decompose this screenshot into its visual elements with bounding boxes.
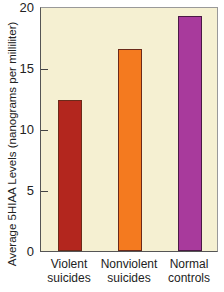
y-tick-label-15: 15 [14, 62, 34, 75]
bar-normal-controls [178, 16, 202, 251]
x-label-line: controls [154, 271, 224, 285]
bar-violent-suicides [58, 100, 82, 251]
y-tick-15 [41, 69, 48, 70]
x-label-line: Normal [154, 257, 224, 271]
y-tick-10 [41, 130, 48, 131]
y-tick-5 [41, 191, 48, 192]
x-label-normal-controls: Normal controls [154, 257, 224, 285]
plot-area [40, 7, 218, 252]
y-tick-label-10: 10 [14, 123, 34, 136]
y-axis-label: Average 5HIAA Levels (nanograms per mill… [6, 14, 18, 274]
y-tick-label-20: 20 [14, 1, 34, 14]
bar-chart: Average 5HIAA Levels (nanograms per mill… [0, 0, 224, 292]
y-tick-label-5: 5 [14, 184, 34, 197]
y-tick-label-0: 0 [14, 245, 34, 258]
bar-nonviolent-suicides [118, 49, 142, 251]
